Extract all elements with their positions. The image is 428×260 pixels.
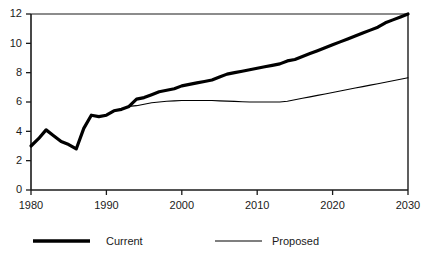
x-tick-label: 2000 xyxy=(170,199,194,211)
y-tick-label: 8 xyxy=(16,66,22,78)
x-tick-label: 1980 xyxy=(19,199,43,211)
y-tick-label: 6 xyxy=(16,95,22,107)
y-tick-label: 0 xyxy=(16,183,22,195)
x-tick-label: 2020 xyxy=(320,199,344,211)
legend-label-current: Current xyxy=(106,235,143,247)
line-chart: 024681012 198019902000201020202030 Curre… xyxy=(0,0,428,260)
chart-figure: 024681012 198019902000201020202030 Curre… xyxy=(0,0,428,260)
x-tick-label: 1990 xyxy=(94,199,118,211)
legend-label-proposed: Proposed xyxy=(272,235,319,247)
x-tick-label: 2010 xyxy=(245,199,269,211)
y-tick-label: 10 xyxy=(10,37,22,49)
x-tick-label: 2030 xyxy=(396,199,420,211)
y-tick-label: 2 xyxy=(16,154,22,166)
y-tick-label: 4 xyxy=(16,125,22,137)
chart-background xyxy=(0,0,428,260)
y-tick-label: 12 xyxy=(10,7,22,19)
